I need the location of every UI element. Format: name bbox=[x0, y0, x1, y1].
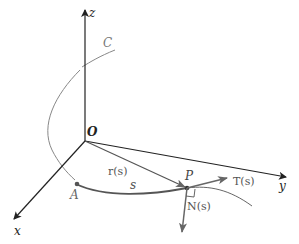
z-axis-label: z bbox=[88, 6, 96, 20]
x-axis-label: x bbox=[14, 224, 21, 238]
point-a bbox=[75, 182, 80, 187]
tangent-vector-label: T(s) bbox=[233, 175, 255, 188]
origin-label: O bbox=[87, 125, 98, 139]
y-axis-label: y bbox=[278, 179, 286, 193]
curve-c bbox=[82, 50, 115, 67]
diagram-canvas: z x y O C A P s r(s) T(s) N(s) bbox=[0, 0, 299, 244]
point-a-label: A bbox=[69, 188, 79, 202]
position-vector-label: r(s) bbox=[108, 165, 128, 178]
point-p-label: P bbox=[184, 169, 194, 183]
curve-label: C bbox=[103, 36, 112, 50]
arc-length-label: s bbox=[130, 178, 136, 192]
normal-vector-label: N(s) bbox=[187, 200, 211, 213]
